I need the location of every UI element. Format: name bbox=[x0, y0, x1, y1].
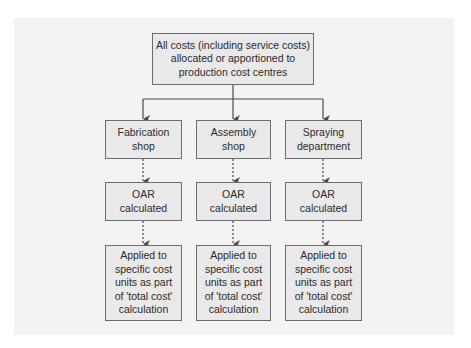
fabrication-shop-box: Fabrication shop bbox=[105, 120, 182, 159]
oar-calculated-box-spraying: OAR calculated bbox=[285, 182, 362, 221]
oar-calculated-box-fabrication: OAR calculated bbox=[105, 182, 182, 221]
oar-calculated-box-assembly: OAR calculated bbox=[196, 182, 271, 221]
root-cost-allocation-box: All costs (including service costs) allo… bbox=[152, 33, 314, 85]
assembly-shop-box: Assembly shop bbox=[196, 120, 271, 159]
applied-to-cost-units-box-spraying: Applied to specific cost units as part o… bbox=[285, 245, 362, 321]
applied-to-cost-units-box-assembly: Applied to specific cost units as part o… bbox=[196, 245, 271, 321]
applied-to-cost-units-box-fabrication: Applied to specific cost units as part o… bbox=[105, 245, 182, 321]
spraying-department-box: Spraying department bbox=[285, 120, 362, 159]
